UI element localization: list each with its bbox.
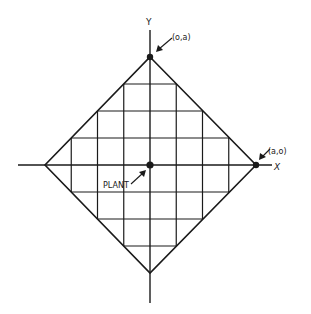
- x-axis-label: X: [273, 162, 281, 172]
- plant-label: PLANT: [103, 181, 129, 190]
- y-axis-label: Y: [145, 17, 152, 27]
- plant-diamond-diagram: Y X (o,a) (a,o) PLANT: [0, 0, 311, 314]
- top-point-arrow: [156, 38, 172, 52]
- right-point-label: (a,o): [268, 147, 287, 156]
- top-vertex-point: [147, 54, 153, 60]
- plant-point: [146, 161, 153, 168]
- top-point-label: (o,a): [172, 33, 191, 42]
- plant-arrow: [131, 170, 146, 184]
- diagram-canvas: Y X (o,a) (a,o) PLANT: [0, 0, 311, 314]
- right-vertex-point: [253, 162, 259, 168]
